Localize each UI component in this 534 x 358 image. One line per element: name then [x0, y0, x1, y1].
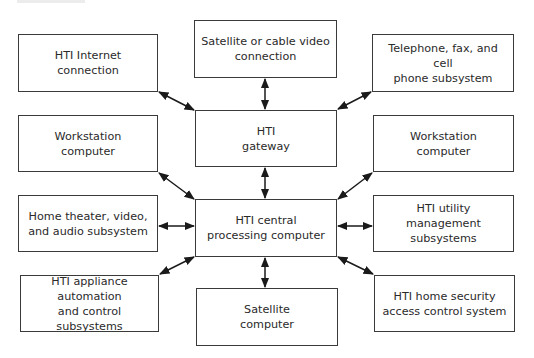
node-label-line2: computer	[410, 144, 477, 159]
node-label-line2: and control subsystems	[25, 304, 154, 334]
node-label-line2: computer	[240, 317, 294, 332]
arrow-internet-gateway	[159, 92, 194, 110]
node-label-line1: Satellite	[240, 302, 294, 317]
node-label-line2: processing computer	[207, 228, 325, 243]
node-label-line1: HTI utility	[378, 201, 509, 216]
node-label-line2: computer	[55, 144, 122, 159]
arrow-security-central	[338, 257, 373, 274]
arrow-workstation-left-central	[159, 173, 194, 199]
node-label-line1: HTI home security	[382, 289, 506, 304]
node-label-line2: connection	[201, 49, 330, 64]
node-label-line2: gateway	[242, 139, 290, 154]
node-label-line1: HTI Internet	[55, 48, 122, 63]
node-label-line1: HTI appliance automation	[25, 274, 154, 304]
node-appliance-automation: HTI appliance automation and control sub…	[20, 275, 159, 332]
node-hti-gateway: HTI gateway	[195, 110, 337, 167]
node-satellite-computer: Satellite computer	[196, 288, 338, 346]
cropped-caption-remnant	[17, 0, 85, 3]
node-label-line2: access control system	[382, 304, 506, 319]
node-workstation-right: Workstation computer	[373, 115, 514, 172]
node-label-line2: connection	[55, 63, 122, 78]
node-label-line1: HTI	[242, 124, 290, 139]
node-label-line1: Workstation	[410, 129, 477, 144]
node-internet-connection: HTI Internet connection	[18, 34, 158, 92]
node-home-theater-subsystem: Home theater, video, and audio subsystem	[18, 195, 158, 252]
arrow-workstation-right-central	[338, 173, 372, 199]
node-label-line2: phone subsystem	[377, 71, 509, 86]
node-label-line1: HTI central	[207, 213, 325, 228]
node-label-line1: Satellite or cable video	[201, 34, 330, 49]
network-diagram: HTI Internet connection Satellite or cab…	[0, 0, 534, 358]
node-label-line1: Workstation	[55, 129, 122, 144]
node-label-line2: and audio subsystem	[28, 224, 148, 239]
node-home-security: HTI home security access control system	[374, 275, 515, 332]
node-telephone-subsystem: Telephone, fax, and cell phone subsystem	[372, 34, 514, 92]
node-label-line2: management subsystems	[378, 216, 509, 246]
node-label-line1: Telephone, fax, and cell	[377, 41, 509, 71]
arrow-telephone-gateway	[338, 92, 371, 109]
node-utility-management: HTI utility management subsystems	[373, 195, 514, 252]
arrow-appliance-central	[160, 257, 194, 274]
node-label-line1: Home theater, video,	[28, 209, 148, 224]
node-workstation-left: Workstation computer	[18, 115, 158, 172]
node-satellite-video-connection: Satellite or cable video connection	[194, 20, 337, 78]
node-central-processing-computer: HTI central processing computer	[195, 199, 337, 257]
